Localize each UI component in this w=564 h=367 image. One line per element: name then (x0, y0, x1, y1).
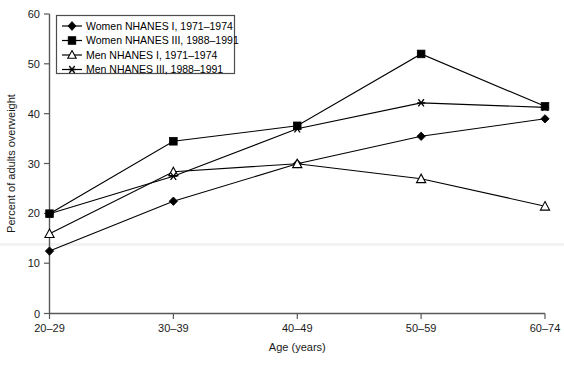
y-tick-label-0: 0 (34, 308, 40, 320)
legend-item-men-nhanes-1[interactable]: Men NHANES I, 1971–1974 (62, 49, 217, 61)
x-axis-title: Age (years) (269, 341, 326, 353)
legend-item-men-nhanes-3[interactable]: Men NHANES III, 1988–1991 (62, 63, 223, 75)
overweight-line-chart: 60 50 40 30 20 10 0 20–29 30–39 40–49 50… (0, 0, 564, 367)
x-tick-label-30-39: 30–39 (158, 322, 189, 334)
legend-label-women-nhanes-3: Women NHANES III, 1988–1991 (86, 34, 239, 46)
x-tick-label-60-74: 60–74 (530, 322, 561, 334)
chart-container: 60 50 40 30 20 10 0 20–29 30–39 40–49 50… (0, 0, 564, 367)
legend-label-women-nhanes-1: Women NHANES I, 1971–1974 (86, 20, 233, 32)
y-tick-label-40: 40 (28, 108, 40, 120)
y-tick-label-10: 10 (28, 257, 40, 269)
legend-label-men-nhanes-3: Men NHANES III, 1988–1991 (86, 63, 223, 75)
x-tick-label-50-59: 50–59 (406, 322, 437, 334)
x-tick-label-40-49: 40–49 (282, 322, 313, 334)
x-tick-label-20-29: 20–29 (34, 322, 65, 334)
y-tick-label-60: 60 (28, 8, 40, 20)
legend-item-women-nhanes-3[interactable]: Women NHANES III, 1988–1991 (62, 34, 239, 46)
y-axis-title: Percent of adults overweight (5, 94, 17, 233)
faint-scan-band (0, 243, 564, 246)
filled-square-marker (170, 137, 178, 145)
legend-item-women-nhanes-1[interactable]: Women NHANES I, 1971–1974 (62, 20, 233, 32)
legend: Women NHANES I, 1971–1974 Women NHANES I… (57, 16, 239, 76)
filled-square-icon (68, 37, 76, 45)
y-tick-label-20: 20 (28, 207, 40, 219)
filled-square-marker (417, 50, 425, 58)
legend-label-men-nhanes-1: Men NHANES I, 1971–1974 (86, 49, 217, 61)
y-tick-label-30: 30 (28, 158, 40, 170)
y-tick-label-50: 50 (28, 58, 40, 70)
